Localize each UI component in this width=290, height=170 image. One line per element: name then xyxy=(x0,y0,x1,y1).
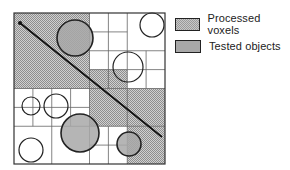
quadtree-diagram xyxy=(0,0,170,170)
tested-object-circle xyxy=(117,132,141,156)
legend: Processed voxels Tested objects xyxy=(175,13,290,57)
legend-label: Tested objects xyxy=(209,40,281,52)
legend-label: Processed voxels xyxy=(208,12,290,36)
legend-item-tested-objects: Tested objects xyxy=(175,35,290,57)
ray-origin-dot xyxy=(18,21,22,25)
tested-object-circle xyxy=(61,114,99,152)
tested-object-circle xyxy=(57,20,93,56)
object-circle xyxy=(22,97,40,115)
solid-swatch-icon xyxy=(175,40,201,53)
object-circle xyxy=(140,13,164,37)
hatched-swatch-icon xyxy=(175,18,200,31)
object-circle xyxy=(113,52,143,82)
object-circle xyxy=(19,138,43,162)
object-circle xyxy=(44,94,68,118)
legend-item-processed-voxels: Processed voxels xyxy=(175,13,290,35)
